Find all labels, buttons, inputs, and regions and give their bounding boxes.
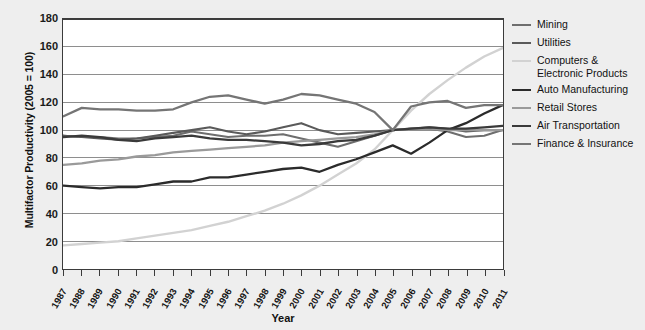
legend-item-label: Utilities <box>537 36 571 49</box>
x-axis-tick-label: 2000 <box>287 286 307 310</box>
chart-lines <box>63 19 503 269</box>
y-axis-tick-label: 20 <box>24 237 58 248</box>
series-line <box>63 126 502 145</box>
legend-color-swatch <box>512 89 531 91</box>
x-axis-tick-label: 2008 <box>434 286 454 310</box>
x-axis-tick-label: 1990 <box>103 286 123 310</box>
legend: MiningUtilitiesComputers & Electronic Pr… <box>512 18 640 155</box>
x-axis-tick-label: 1988 <box>67 286 87 310</box>
series-line <box>63 105 502 188</box>
x-axis-tick-label: 1991 <box>122 286 142 310</box>
legend-item-label: Mining <box>537 18 568 31</box>
x-axis-tick-label: 1999 <box>269 286 289 310</box>
legend-color-swatch <box>512 125 531 127</box>
x-axis-tick-label: 1994 <box>177 286 197 310</box>
x-axis-tick-labels: 1987198819891990199119921993199419951996… <box>62 276 504 316</box>
x-axis-tick-label: 2005 <box>379 286 399 310</box>
legend-color-swatch <box>512 24 531 26</box>
legend-color-swatch <box>512 60 531 62</box>
legend-item[interactable]: Retail Stores <box>512 101 640 116</box>
legend-color-swatch <box>512 107 531 109</box>
x-axis-tick-label: 1997 <box>232 286 252 310</box>
y-axis-tick-label: 40 <box>24 209 58 220</box>
y-axis-tick-label: 140 <box>24 69 58 80</box>
legend-item-label: Finance & Insurance <box>537 137 633 150</box>
x-axis-tick-label: 1992 <box>140 286 160 310</box>
y-axis-tick-label: 0 <box>24 265 58 276</box>
x-axis-tick-label: 1993 <box>158 286 178 310</box>
legend-item[interactable]: Finance & Insurance <box>512 137 640 152</box>
x-axis-tick-label: 1989 <box>85 286 105 310</box>
x-axis-tick-label: 2010 <box>471 286 491 310</box>
y-axis-tick-label: 80 <box>24 153 58 164</box>
y-axis-tick-labels: 020406080100120140160180 <box>20 0 58 330</box>
x-axis-tick-label: 2004 <box>361 286 381 310</box>
y-axis-tick-label: 160 <box>24 41 58 52</box>
legend-item[interactable]: Air Transportation <box>512 119 640 134</box>
legend-item[interactable]: Computers & Electronic Products <box>512 54 640 80</box>
x-axis-tick-label: 2002 <box>324 286 344 310</box>
x-axis-tick-label: 2007 <box>416 286 436 310</box>
plot-area <box>62 18 504 270</box>
legend-item[interactable]: Auto Manufacturing <box>512 83 640 98</box>
x-axis-tick-label: 2001 <box>305 286 325 310</box>
series-line <box>63 94 502 130</box>
x-axis-tick-label: 2011 <box>489 287 509 310</box>
y-axis-tick-label: 100 <box>24 125 58 136</box>
x-axis-tick-label: 2003 <box>342 286 362 310</box>
legend-item-label: Retail Stores <box>537 101 597 114</box>
x-axis-tick-label: 1996 <box>214 286 234 310</box>
chart-container: Multifactor Productivity (2005 = 100) 02… <box>0 0 645 330</box>
legend-color-swatch <box>512 143 531 145</box>
legend-item-label: Computers & Electronic Products <box>537 54 640 80</box>
x-axis-tick-label: 1995 <box>195 286 215 310</box>
legend-item-label: Air Transportation <box>537 119 620 132</box>
y-axis-tick-label: 180 <box>24 13 58 24</box>
x-axis-tick-label: 1998 <box>250 286 270 310</box>
y-axis-tick-label: 120 <box>24 97 58 108</box>
x-axis-tick-label: 2009 <box>452 286 472 310</box>
legend-item-label: Auto Manufacturing <box>537 83 628 96</box>
legend-item[interactable]: Mining <box>512 18 640 33</box>
legend-color-swatch <box>512 42 531 44</box>
y-axis-tick-label: 60 <box>24 181 58 192</box>
legend-item[interactable]: Utilities <box>512 36 640 51</box>
series-line <box>63 48 502 245</box>
x-axis-title: Year <box>62 312 504 324</box>
x-axis-tick-label: 2006 <box>397 286 417 310</box>
